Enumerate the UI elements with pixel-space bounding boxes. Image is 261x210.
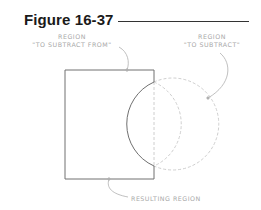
leader-lines xyxy=(108,47,228,197)
resulting-region-outline xyxy=(65,70,154,179)
dashed-circle-outside xyxy=(154,78,219,170)
subtracted-circle-outline xyxy=(154,78,219,170)
leader-result xyxy=(108,179,128,197)
leader-from xyxy=(119,47,128,70)
region-diagram xyxy=(0,0,261,210)
leader-subtract xyxy=(208,53,228,98)
dashed-circle-inside-rect xyxy=(154,82,181,166)
